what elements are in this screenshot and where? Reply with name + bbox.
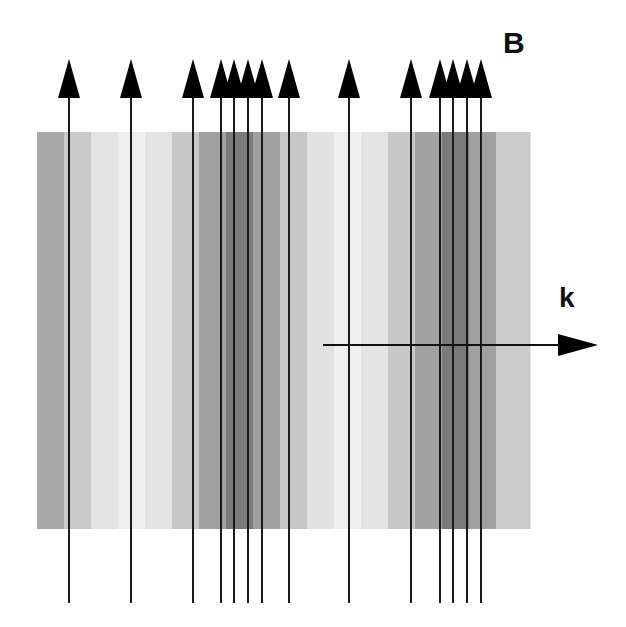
arrowhead-up-icon	[338, 59, 360, 98]
arrowhead-right-icon	[558, 334, 598, 356]
intensity-band	[37, 132, 65, 529]
intensity-band	[307, 132, 335, 529]
arrowhead-up-icon	[400, 59, 422, 98]
arrowhead-up-icon	[182, 59, 204, 98]
intensity-band	[280, 132, 308, 529]
arrowhead-up-icon	[470, 59, 492, 98]
intensity-band	[442, 132, 470, 529]
intensity-band	[172, 132, 200, 529]
arrowhead-up-icon	[120, 59, 142, 98]
intensity-band	[226, 132, 254, 529]
intensity-band	[145, 132, 173, 529]
intensity-band	[496, 132, 531, 529]
panel-label: B	[503, 26, 525, 60]
arrowhead-up-icon	[278, 59, 300, 98]
arrowhead-up-icon	[58, 59, 80, 98]
intensity-band	[415, 132, 443, 529]
intensity-band	[253, 132, 281, 529]
intensity-band	[361, 132, 389, 529]
intensity-band	[334, 132, 362, 529]
intensity-bands	[37, 132, 531, 529]
arrowhead-up-icon	[251, 59, 273, 98]
intensity-band	[91, 132, 119, 529]
diagram-canvas	[0, 0, 626, 627]
wavevector-label: k	[559, 282, 575, 314]
intensity-band	[199, 132, 227, 529]
intensity-band	[469, 132, 497, 529]
